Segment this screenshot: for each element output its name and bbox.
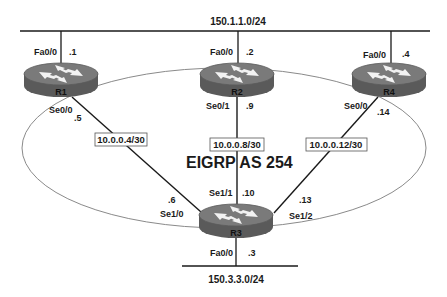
router-r3[interactable]: R3: [199, 204, 273, 238]
r3-se-r4-ip: .13: [299, 195, 312, 205]
r3-se-r4-interface: Se1/2: [289, 211, 313, 221]
router-name: R2: [231, 87, 243, 97]
r3-se-r1-interface: Se1/0: [160, 209, 184, 219]
router-r1[interactable]: R1: [24, 63, 98, 97]
r1-fa-interface: Fa0/0: [34, 47, 57, 57]
router-name: R3: [230, 228, 242, 238]
subnet-label: 10.0.0.4/30: [97, 134, 145, 145]
network-topology-diagram: R1 R2 R4 R3 150.1.1.0/24 Fa0/0 .1 Se0/0 …: [0, 0, 447, 297]
subnet-box-r2-r3: 10.0.0.8/30: [210, 138, 264, 151]
r4-fa-interface: Fa0/0: [363, 50, 386, 60]
r3-se-r2-interface: Se1/1: [209, 188, 233, 198]
r2-fa-ip: .2: [246, 47, 254, 57]
r2-fa-interface: Fa0/0: [210, 47, 233, 57]
r4-se-ip: .14: [377, 107, 390, 117]
r3-fa-ip: .3: [248, 248, 256, 258]
subnet-label: 10.0.0.12/30: [310, 139, 363, 150]
r1-fa-ip: .1: [69, 47, 77, 57]
r4-se-interface: Se0/0: [344, 101, 368, 111]
subnet-box-r1-r3: 10.0.0.4/30: [95, 133, 147, 146]
r3-se-r2-ip: .10: [242, 188, 255, 198]
r3-se-r1-ip: .6: [168, 195, 176, 205]
router-r2[interactable]: R2: [200, 63, 274, 97]
r4-fa-ip: .4: [402, 49, 410, 59]
r1-r3-serial-link: [72, 97, 201, 212]
bottom-lan-label: 150.3.3.0/24: [208, 274, 264, 285]
r3-fa-interface: Fa0/0: [210, 248, 233, 258]
top-lan-label: 150.1.1.0/24: [210, 16, 266, 27]
subnet-box-r4-r3: 10.0.0.12/30: [306, 138, 367, 151]
router-name: R4: [383, 87, 395, 97]
eigrp-title: EIGRP AS 254: [186, 154, 293, 171]
r1-se-interface: Se0/0: [49, 105, 73, 115]
router-r4[interactable]: R4: [352, 63, 426, 97]
r2-se-interface: Se0/1: [206, 101, 230, 111]
router-name: R1: [55, 87, 67, 97]
r1-se-ip: .5: [74, 113, 82, 123]
subnet-label: 10.0.0.8/30: [213, 139, 261, 150]
r2-se-ip: .9: [246, 101, 254, 111]
